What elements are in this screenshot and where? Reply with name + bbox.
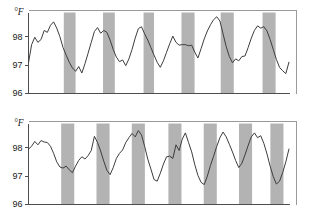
chart-panel-top: 969798°F [0, 0, 310, 110]
y-axis-unit-label: °F [14, 7, 24, 17]
shaded-band [96, 124, 109, 205]
shaded-band [103, 13, 115, 94]
shaded-band [168, 124, 181, 205]
shaded-band [204, 124, 217, 205]
y-axis-tick-label: 96 [12, 88, 22, 98]
y-axis-tick-label: 98 [12, 32, 22, 42]
y-axis-unit-label: °F [14, 118, 24, 128]
chart-bottom-svg: 969798°F [0, 110, 310, 219]
shaded-band [221, 13, 234, 94]
y-axis-tick-label: 97 [12, 171, 22, 181]
y-axis-tick-label: 98 [12, 143, 22, 153]
shaded-band [144, 13, 154, 94]
y-axis-tick-label: 97 [12, 60, 22, 70]
shaded-band [181, 13, 194, 94]
shaded-band [61, 124, 74, 205]
shaded-band [263, 13, 276, 94]
shaded-band [270, 124, 283, 205]
chart-panel-bottom: 969798°F [0, 110, 310, 219]
y-axis-tick-label: 96 [12, 199, 22, 209]
temperature-figure: 969798°F 969798°F [0, 0, 310, 219]
chart-top-svg: 969798°F [0, 0, 310, 110]
